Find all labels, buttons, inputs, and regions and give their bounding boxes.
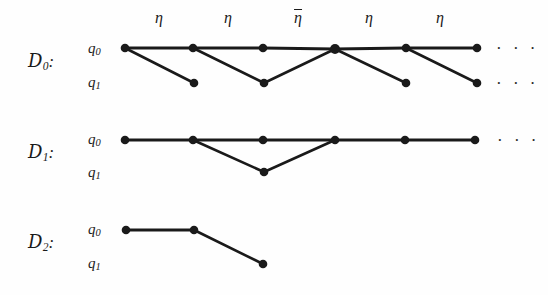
state-label-d1-q1: q1	[88, 165, 101, 182]
edge-D0-horizontal-2	[263, 48, 335, 49]
state-label-d1-q1-subscript: 1	[96, 170, 101, 181]
edge-D1-diagonal-5	[193, 140, 264, 172]
edge-D0-diagonal-7	[264, 49, 335, 83]
node-D1-q0-3	[331, 136, 340, 145]
edge-label-eta-bar-3: η	[294, 9, 302, 26]
state-label-d2-q1-symbol: q	[88, 255, 96, 271]
state-label-d1-q0-symbol: q	[88, 131, 96, 147]
node-D0-q1-1	[260, 79, 269, 88]
node-D0-q0-2	[259, 44, 268, 53]
state-label-d2-q0: q0	[88, 222, 101, 239]
edge-D0-diagonal-9	[406, 48, 477, 83]
row-label-d2-colon: :	[49, 233, 55, 252]
edge-label-eta-4: η	[365, 10, 373, 26]
edge-label-eta-2-text: η	[224, 9, 232, 26]
edge-D0-diagonal-6	[193, 48, 264, 83]
ellipsis-d0-top: · · ·	[496, 40, 539, 57]
node-D2-q0-0	[122, 226, 131, 235]
state-label-d1-q0-subscript: 0	[96, 137, 101, 148]
edge-label-eta-1-text: η	[155, 9, 163, 26]
state-label-d0-q1-subscript: 1	[96, 80, 101, 91]
node-D1-q0-0	[121, 136, 130, 145]
edge-label-eta-1: η	[155, 10, 163, 26]
ellipsis-d1-top: · · ·	[497, 132, 540, 149]
edge-label-eta-4-text: η	[365, 9, 373, 26]
state-label-d0-q0: q0	[88, 41, 101, 58]
state-label-d1-q1-symbol: q	[88, 164, 96, 180]
state-label-d2-q1: q1	[88, 256, 101, 273]
node-D1-q0-4	[401, 136, 410, 145]
edge-D2-diagonal-1	[194, 230, 263, 264]
state-label-d0-q1-symbol: q	[88, 74, 96, 90]
node-D0-q0-4	[402, 44, 411, 53]
state-label-d0-q0-symbol: q	[88, 40, 96, 56]
state-label-d1-q0: q0	[88, 132, 101, 149]
edge-label-eta-2: η	[224, 10, 232, 26]
graph-canvas	[0, 0, 548, 295]
row-label-d1: D1:	[28, 143, 54, 163]
row-label-d0-symbol: D	[28, 50, 43, 71]
edge-D0-diagonal-8	[335, 49, 406, 83]
node-D1-q0-1	[189, 136, 198, 145]
row-label-d1-colon: :	[49, 143, 55, 162]
row-label-d2: D2:	[28, 233, 54, 253]
node-D0-q0-5	[473, 44, 482, 53]
state-label-d2-q0-symbol: q	[88, 221, 96, 237]
edge-label-eta-5: η	[436, 10, 444, 26]
edge-D0-horizontal-3	[335, 48, 406, 49]
row-label-d0: D0:	[28, 52, 54, 72]
node-D2-q1-0	[259, 260, 268, 269]
state-label-d2-q1-subscript: 1	[96, 261, 101, 272]
edge-D0-diagonal-5	[125, 48, 194, 83]
edge-D1-diagonal-6	[264, 140, 335, 172]
state-label-d0-q1: q1	[88, 75, 101, 92]
node-D0-q0-3	[330, 44, 340, 54]
row-label-d1-symbol: D	[28, 141, 43, 162]
node-D1-q0-2	[259, 136, 268, 145]
node-D0-q1-0	[190, 79, 199, 88]
row-label-d2-symbol: D	[28, 231, 43, 252]
node-D1-q1-0	[260, 168, 269, 177]
state-label-d2-q0-subscript: 0	[96, 227, 101, 238]
edge-label-eta-bar-3-text: η	[294, 9, 302, 26]
state-label-d0-q0-subscript: 0	[96, 46, 101, 57]
automaton-run-diagram: D0: q0 q1 η η η η η · · · · · · D1: q0 q…	[0, 0, 548, 295]
node-D2-q0-1	[190, 226, 199, 235]
row-label-d0-colon: :	[49, 52, 55, 71]
ellipsis-d0-bottom: · · ·	[496, 75, 539, 92]
edges-layer	[125, 48, 477, 264]
node-D0-q1-2	[402, 79, 411, 88]
edge-label-eta-5-text: η	[436, 9, 444, 26]
node-D0-q0-0	[121, 44, 130, 53]
node-D0-q0-1	[189, 44, 198, 53]
node-D0-q1-3	[473, 79, 482, 88]
node-D1-q0-5	[471, 136, 480, 145]
